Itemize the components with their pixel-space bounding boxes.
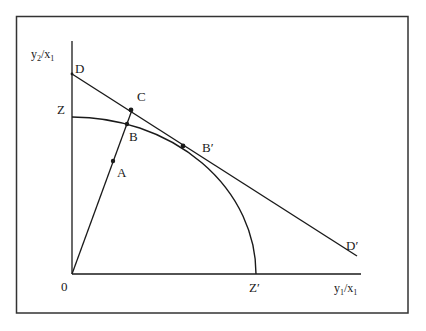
label-z-prime: Z′	[249, 280, 260, 295]
label-b-prime: B′	[202, 140, 214, 155]
ray-0c	[72, 110, 132, 274]
label-z: Z	[57, 102, 65, 117]
y-axis-label: y2/x1	[31, 47, 54, 63]
point-c-dot	[129, 108, 134, 113]
point-b-dot	[125, 122, 129, 126]
x-axis-label: y1/x1	[334, 281, 357, 297]
origin-label: 0	[61, 279, 68, 294]
label-b: B	[129, 129, 138, 144]
label-d-prime: D′	[346, 238, 358, 253]
point-a-dot	[111, 159, 115, 163]
ppf-diagram: y2/x1 y1/x1 0 D C Z B B′ A Z′ D′	[0, 0, 426, 331]
point-b-prime-dot	[181, 144, 186, 149]
label-a: A	[117, 165, 127, 180]
point-d-dot	[71, 73, 74, 76]
label-d: D	[75, 61, 84, 76]
label-c: C	[137, 89, 146, 104]
frontier-curve-zz	[72, 117, 256, 274]
line-dd	[72, 74, 357, 256]
